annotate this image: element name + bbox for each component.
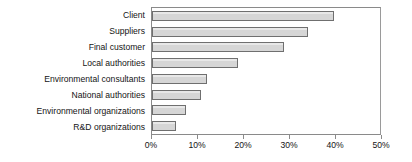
category-label: R&D organizations bbox=[73, 122, 145, 132]
category-label: Local authorities bbox=[82, 58, 145, 68]
bar-row bbox=[152, 24, 380, 40]
x-tick-label: 0% bbox=[145, 140, 157, 151]
category-label-row: R&D organizations bbox=[0, 119, 149, 135]
category-label: Environmental consultants bbox=[44, 74, 145, 84]
bar bbox=[152, 42, 284, 52]
bars-layer bbox=[152, 8, 380, 134]
x-tick-mark bbox=[335, 135, 336, 139]
x-tick-mark bbox=[197, 135, 198, 139]
bar bbox=[152, 27, 308, 37]
x-tick-label: 50% bbox=[372, 140, 389, 151]
category-label-row: Environmental organizations bbox=[0, 103, 149, 119]
category-label: Client bbox=[123, 10, 145, 20]
x-tick-mark bbox=[151, 135, 152, 139]
x-tick-mark bbox=[289, 135, 290, 139]
bar-row bbox=[152, 8, 380, 24]
category-label-row: Environmental consultants bbox=[0, 71, 149, 87]
bar bbox=[152, 121, 176, 131]
plot-area bbox=[151, 7, 381, 135]
bar-row bbox=[152, 103, 380, 119]
category-label-row: Local authorities bbox=[0, 55, 149, 71]
bar-chart: Client Suppliers Final customer Local au… bbox=[0, 0, 412, 162]
category-label: National authorities bbox=[71, 90, 145, 100]
bar-row bbox=[152, 55, 380, 71]
x-tick-label: 30% bbox=[280, 140, 297, 151]
category-label-row: Final customer bbox=[0, 39, 149, 55]
category-label-row: Client bbox=[0, 7, 149, 23]
category-axis: Client Suppliers Final customer Local au… bbox=[0, 7, 149, 135]
x-tick-label: 40% bbox=[326, 140, 343, 151]
bar bbox=[152, 90, 201, 100]
x-tick-label: 20% bbox=[234, 140, 251, 151]
bar bbox=[152, 58, 238, 68]
bar bbox=[152, 105, 186, 115]
bar bbox=[152, 74, 207, 84]
bar-row bbox=[152, 71, 380, 87]
x-tick-label: 10% bbox=[188, 140, 205, 151]
category-label-row: National authorities bbox=[0, 87, 149, 103]
category-label: Final customer bbox=[89, 42, 145, 52]
category-label: Environmental organizations bbox=[37, 106, 145, 116]
x-tick-mark bbox=[381, 135, 382, 139]
bar-row bbox=[152, 40, 380, 56]
category-label: Suppliers bbox=[109, 26, 145, 36]
category-label-row: Suppliers bbox=[0, 23, 149, 39]
x-tick-mark bbox=[243, 135, 244, 139]
bar-row bbox=[152, 118, 380, 134]
bar bbox=[152, 11, 334, 21]
x-axis-labels: 0%10%20%30%40%50% bbox=[0, 140, 412, 156]
bar-row bbox=[152, 87, 380, 103]
